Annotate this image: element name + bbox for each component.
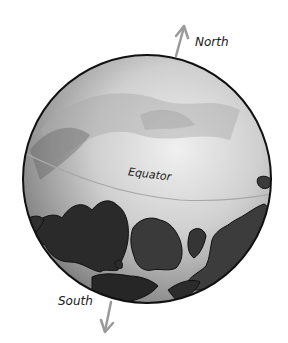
north-arrow-icon (176, 26, 188, 56)
south-arrow-icon (101, 302, 113, 332)
south-label: South (58, 294, 93, 308)
north-label: North (195, 35, 229, 49)
globe-diagram: North Equator South (0, 0, 288, 343)
